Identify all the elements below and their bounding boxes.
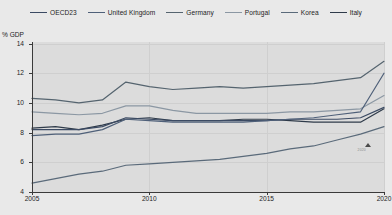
y-axis-tick-label: 10: [0, 99, 24, 106]
x-axis-tick-label: 2015: [247, 195, 287, 202]
y-axis-tick-label: 6: [0, 158, 24, 165]
x-axis-tick-mark: [32, 192, 33, 195]
x-axis-tick-label: 2020: [364, 195, 392, 202]
annotation-marker: 2020: [365, 143, 371, 152]
y-axis-tick-mark: [29, 162, 32, 163]
x-axis-tick-mark: [384, 192, 385, 195]
legend-swatch-icon: [225, 12, 242, 13]
legend-item-korea[interactable]: Korea: [281, 9, 319, 16]
y-axis-tick-mark: [29, 103, 32, 104]
y-axis-tick-label: 8: [0, 129, 24, 136]
y-axis-tick-label: 14: [0, 40, 24, 47]
y-axis-tick-mark: [29, 73, 32, 74]
legend-item-label: OECD23: [50, 9, 77, 16]
chart-legend: OECD23United KingdomGermanyPortugalKorea…: [0, 9, 392, 16]
y-axis-tick-mark: [29, 133, 32, 134]
plot-area: [32, 42, 384, 192]
legend-item-italy[interactable]: Italy: [330, 9, 362, 16]
x-axis-line: [32, 192, 384, 193]
legend-item-united-kingdom[interactable]: United Kingdom: [88, 9, 156, 16]
x-axis-tick-label: 2010: [129, 195, 169, 202]
gridline-vertical: [384, 42, 385, 192]
triangle-marker-icon: [365, 143, 371, 147]
legend-item-germany[interactable]: Germany: [166, 9, 213, 16]
y-axis-tick-mark: [29, 44, 32, 45]
legend-item-label: Italy: [350, 9, 362, 16]
x-axis-tick-mark: [149, 192, 150, 195]
legend-swatch-icon: [166, 12, 183, 13]
legend-item-label: Korea: [301, 9, 319, 16]
series-lines: [32, 42, 384, 192]
y-axis-line: [32, 42, 33, 192]
chart-screenshot: OECD23United KingdomGermanyPortugalKorea…: [0, 0, 392, 215]
legend-item-portugal[interactable]: Portugal: [225, 9, 270, 16]
series-line-germany: [32, 61, 384, 103]
x-axis-tick-label: 2005: [12, 195, 52, 202]
legend-swatch-icon: [88, 12, 105, 13]
legend-item-label: Germany: [186, 9, 213, 16]
legend-swatch-icon: [281, 12, 298, 13]
legend-item-label: United Kingdom: [108, 9, 156, 16]
series-line-korea: [32, 127, 384, 183]
legend-item-label: Portugal: [245, 9, 270, 16]
legend-swatch-icon: [30, 12, 47, 13]
y-axis-title: % GDP: [2, 31, 24, 38]
y-axis-tick-label: 12: [0, 69, 24, 76]
annotation-label: 2020: [358, 148, 371, 152]
x-axis-tick-mark: [267, 192, 268, 195]
series-line-portugal: [32, 95, 384, 114]
legend-swatch-icon: [330, 12, 347, 13]
y-axis-tick-label: 4: [0, 188, 24, 195]
series-line-united-kingdom: [32, 73, 384, 135]
legend-item-oecd23[interactable]: OECD23: [30, 9, 77, 16]
